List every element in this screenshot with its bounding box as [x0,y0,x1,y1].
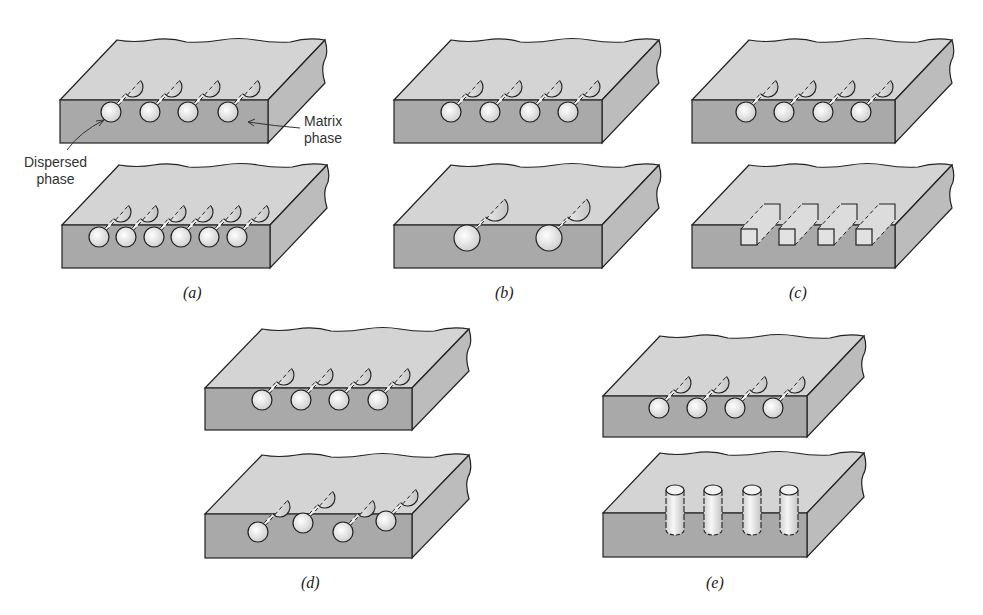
fiber-end [558,102,578,122]
panel-label-a: (a) [183,284,202,302]
fiber-end [140,102,160,122]
fiber-end [291,390,311,410]
fiber-end [101,102,121,122]
fiber-end [851,102,871,122]
fiber-end [252,390,272,410]
fiber-end [368,390,388,410]
slab-c-bottom [692,164,954,269]
slab-a-bottom [62,164,329,269]
fiber-end [454,225,480,251]
fiber-end [480,102,500,122]
slab-b-bottom [394,164,661,269]
composite-figure [0,0,983,615]
fiber-end [116,227,136,247]
fiber-end [813,102,833,122]
slab-e-bottom [603,452,866,558]
dispersed-phase-label: Dispersed phase [24,154,87,188]
fiber-end [89,227,109,247]
fiber-end [293,513,313,533]
fiber-vertical [704,485,722,535]
slab-d-top [205,328,471,431]
front-face [394,225,602,268]
fiber-end [329,390,349,410]
fiber-end [144,227,164,247]
fiber-end [774,102,794,122]
fiber-end [536,225,562,251]
fiber-end [520,102,540,122]
slab-b-top [394,39,661,144]
fiber-vertical [666,485,684,535]
fiber-end [248,522,268,542]
slab-c-top [692,39,954,144]
slab-a-top [60,39,327,144]
slab-d-bottom [205,454,471,559]
fiber-end [687,398,707,418]
panel-label-c: (c) [789,284,807,302]
panel-label-b: (b) [495,284,514,302]
fiber-end [333,522,353,542]
fiber-end [649,398,669,418]
fiber-vertical [780,485,798,535]
slab-e-top [603,335,866,438]
fiber-end [218,102,238,122]
matrix-phase-label: Matrix phase [304,113,342,147]
fiber-vertical [743,485,761,535]
fiber-end [725,398,745,418]
fiber-end [376,511,396,531]
panel-label-d: (d) [301,574,320,592]
fiber-end [227,227,247,247]
panel-label-e: (e) [706,574,724,592]
fiber-end [736,102,756,122]
fiber-end [763,398,783,418]
fiber-end [178,102,198,122]
fiber-end [171,227,191,247]
fiber-end [199,227,219,247]
fiber-end [441,102,461,122]
